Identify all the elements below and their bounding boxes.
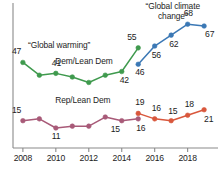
annotation-global-climate-change: “Global climate change” <box>126 2 219 21</box>
data-label: 15 <box>168 107 177 116</box>
series-label-rep-lean-dem: Rep/Lean Dem <box>55 96 110 106</box>
data-label: 56 <box>152 51 161 60</box>
data-label: 15 <box>111 125 120 134</box>
x-tick-label: 2014 <box>105 154 139 163</box>
data-label: 16 <box>152 104 161 113</box>
x-axis-ticks <box>23 148 188 152</box>
x-tick-label: 2008 <box>6 154 40 163</box>
data-label: 46 <box>135 68 144 77</box>
data-label: 15 <box>12 106 21 115</box>
data-label: 47 <box>12 47 21 56</box>
data-label: 16 <box>136 124 145 133</box>
x-tick-label: 2016 <box>138 154 172 163</box>
x-tick-label: 2018 <box>171 154 205 163</box>
data-label: 68 <box>184 9 193 18</box>
x-tick-label: 2010 <box>39 154 73 163</box>
data-label: 21 <box>204 115 213 124</box>
data-label: 19 <box>135 98 144 107</box>
series-2 <box>21 115 141 131</box>
data-label: 62 <box>169 40 178 49</box>
data-label: 55 <box>127 33 136 42</box>
series-label-dem-lean-dem: Dem/Lean Dem <box>55 57 112 67</box>
data-label: 11 <box>52 132 61 141</box>
data-label: 67 <box>205 30 214 39</box>
data-label: 42 <box>120 76 129 85</box>
chart-container: “Global warming” “Global climate change”… <box>0 0 219 170</box>
data-label: 18 <box>185 100 194 109</box>
x-tick-label: 2012 <box>72 154 106 163</box>
annotation-global-warming: “Global warming” <box>13 41 105 51</box>
line-chart-plot <box>0 0 219 170</box>
data-label: 41 <box>52 59 61 68</box>
